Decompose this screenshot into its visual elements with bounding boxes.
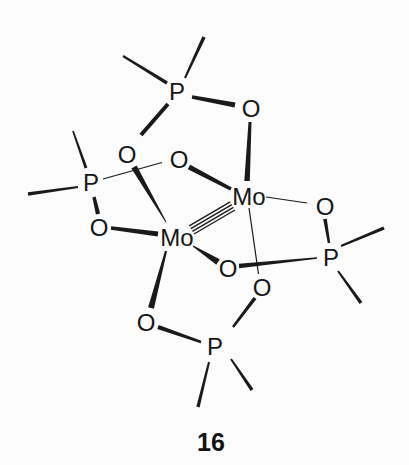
mo-mo-multiple-bond: [189, 202, 235, 234]
bond-mo-right-o-right: [266, 197, 307, 203]
atom-label-mo-left: Mo: [160, 224, 193, 251]
atom-label-o-right: O: [316, 193, 335, 220]
atom-label-p-right: P: [323, 244, 339, 271]
bond-o-right-p-right: [323, 219, 330, 244]
structure-figure: P O O O P Mo O O Mo P O O O P 16: [0, 0, 409, 465]
bond-mo-left-o-lower-left: [148, 251, 167, 309]
atom-label-o-upper-left: O: [118, 141, 137, 168]
atom-label-p-left: P: [83, 169, 99, 196]
bond-o-left-mo-left: [111, 226, 159, 236]
bond-o-top-right-mo-right: [244, 122, 251, 181]
bond-o-lower-right-p-bottom: [232, 297, 257, 328]
atom-label-o-lower-right: O: [253, 274, 272, 301]
atom-label-o-lower-left: O: [137, 309, 156, 336]
molecule-drawing: P O O O P Mo O O Mo P O O O P 16: [0, 0, 409, 465]
bond-p-top-o-top-right: [192, 95, 236, 107]
bond-p-left-o-left: [92, 197, 100, 215]
compound-number-label: 16: [197, 428, 225, 456]
alkyl-stroke-p-right-down: [337, 270, 362, 304]
alkyl-stroke-p-left-up: [72, 131, 87, 169]
atom-label-o-left: O: [90, 214, 109, 241]
bond-p-top-o-upper-left: [141, 104, 168, 135]
wedge-mo-left-o-mid: [193, 246, 220, 265]
alkyl-stroke-p-top-left: [123, 55, 168, 84]
alkyl-stroke-p-right-up: [341, 226, 385, 247]
wedge-o-upper-left-mo-left: [131, 166, 166, 223]
bond-o-mid-p-right: [239, 257, 317, 268]
alkyl-stroke-p-left-west: [28, 186, 78, 196]
alkyl-stroke-p-top-right: [184, 36, 206, 78]
atom-label-mo-right: Mo: [232, 183, 265, 210]
bond-o-lower-left-p-bottom: [157, 325, 201, 343]
bond-o-upper-center-mo-right: [188, 165, 232, 191]
atom-label-p-bottom: P: [207, 333, 223, 360]
atom-label-o-mid: O: [219, 255, 238, 282]
alkyl-stroke-p-bottom-left: [196, 362, 210, 408]
atom-label-p-top: P: [169, 78, 185, 105]
atom-label-o-upper-center: O: [170, 146, 189, 173]
atom-label-o-top-right: O: [242, 95, 261, 122]
alkyl-stroke-p-bottom-right: [230, 358, 253, 391]
